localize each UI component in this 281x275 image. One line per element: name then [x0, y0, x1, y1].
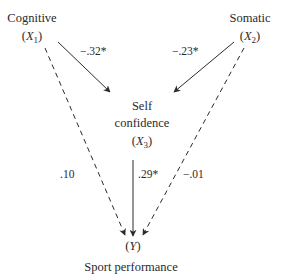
- path-somatic-to-self-confidence: −.23*: [172, 42, 234, 92]
- coefficient-label: .10: [60, 168, 75, 180]
- performance-label: Sport performance: [84, 260, 178, 274]
- node-self-confidence: Self confidence (X3): [115, 99, 170, 150]
- self-confidence-variable: (X3): [132, 134, 152, 150]
- somatic-label: Somatic: [230, 11, 271, 25]
- arrow-dashed: [45, 48, 125, 235]
- coefficient-label: .29*: [138, 168, 158, 180]
- path-self-confidence-to-performance: .29*: [133, 160, 158, 236]
- path-cognitive-to-performance: .10: [45, 48, 125, 235]
- node-somatic: Somatic (X2): [230, 11, 271, 45]
- self-confidence-label-line2: confidence: [115, 116, 170, 130]
- node-performance: (Y) Sport performance: [84, 239, 178, 274]
- somatic-variable: (X2): [240, 29, 260, 45]
- performance-variable: (Y): [125, 239, 140, 253]
- path-cognitive-to-self-confidence: −.32*: [58, 42, 110, 92]
- cognitive-label: Cognitive: [7, 11, 57, 25]
- coefficient-label: −.32*: [80, 45, 107, 57]
- coefficient-label: −.23*: [172, 45, 199, 57]
- coefficient-label: −.01: [183, 168, 204, 180]
- node-cognitive: Cognitive (X1): [7, 11, 57, 45]
- self-confidence-label-line1: Self: [132, 99, 153, 113]
- cognitive-variable: (X1): [22, 29, 42, 45]
- path-diagram: Cognitive (X1) Somatic (X2) Self confide…: [0, 0, 281, 275]
